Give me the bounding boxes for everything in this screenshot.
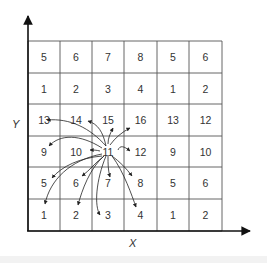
grid-cell-label: 2 — [73, 83, 79, 95]
arrow-to-10 — [90, 150, 100, 151]
grid-cell-label: 9 — [170, 146, 176, 158]
grid-cell-label: 6 — [73, 51, 79, 63]
grid-cell-label: 15 — [102, 114, 114, 126]
grid-cell-label: 2 — [203, 209, 209, 221]
grid-cell-label: 1 — [41, 209, 47, 221]
grid-cell-label: 11 — [103, 146, 114, 158]
grid-cell-label: 7 — [105, 51, 111, 63]
y-axis-label: Y — [12, 118, 20, 130]
grid-cell-label: 3 — [105, 209, 111, 221]
arrow-to-16 — [110, 128, 130, 145]
grid-cell-label: 2 — [73, 209, 79, 221]
grid-cell-label: 10 — [70, 146, 82, 158]
grid-cell-label: 5 — [41, 51, 47, 63]
grid-cell-label: 7 — [105, 177, 111, 189]
grid-diagram: 5678561234121314151613129101112910567856… — [0, 0, 267, 263]
grid-cell-label: 8 — [138, 51, 144, 63]
grid-cell-label: 13 — [167, 114, 179, 126]
grid-cell-label: 4 — [138, 83, 144, 95]
grid-cell-label: 8 — [138, 177, 144, 189]
grid-cell-label: 5 — [170, 51, 176, 63]
grid-cell-label: 4 — [138, 209, 144, 221]
grid-cell-label: 10 — [200, 146, 212, 158]
grid-lines — [28, 41, 222, 231]
x-axis-label: X — [128, 237, 137, 249]
grid-cell-label: 2 — [203, 83, 209, 95]
grid-cell-label: 16 — [135, 114, 147, 126]
grid-cell-label: 12 — [200, 114, 212, 126]
grid-cell-label: 9 — [41, 146, 47, 158]
grid-cell-label: 1 — [41, 83, 47, 95]
grid-cell-label: 3 — [105, 83, 111, 95]
grid-cell-label: 6 — [203, 177, 209, 189]
grid-cell-label: 6 — [203, 51, 209, 63]
grid-cell-label: 1 — [170, 209, 176, 221]
arrow-to-2 — [78, 156, 104, 205]
grid-cell-label: 12 — [135, 146, 147, 158]
arrow-to-7 — [108, 156, 110, 177]
grid-cell-label: 5 — [170, 177, 176, 189]
grid-cell-label: 5 — [41, 177, 47, 189]
grid-cell-label: 1 — [170, 83, 176, 95]
grid-cell-label: 6 — [73, 177, 79, 189]
